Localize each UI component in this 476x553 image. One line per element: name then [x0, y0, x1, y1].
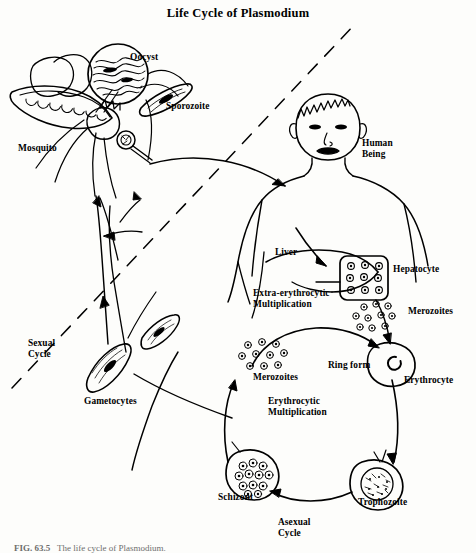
liver-infection-arrow — [296, 228, 326, 266]
liver-merozoites-cluster — [353, 300, 395, 344]
label-oocyst: Oocyst — [130, 52, 158, 63]
figure-caption-text: The life cycle of Plasmodium. — [57, 543, 166, 553]
label-erythrocyte: Erythrocyte — [404, 375, 453, 386]
label-human-being: Human Being — [362, 138, 393, 160]
label-trophozoite: Trophozoite — [358, 497, 407, 508]
blood-merozoites-cluster — [239, 339, 288, 370]
figure-caption-number: FIG. 63.5 — [14, 543, 57, 553]
sporozoite-transmission-arc — [140, 70, 285, 186]
label-erythrocytic-multiplication: Erythrocytic Multiplication — [268, 396, 327, 418]
label-extra-erythrocytic-multiplication: Extra-erythrocytic Multiplication — [253, 288, 330, 310]
label-gametocytes: Gametocytes — [84, 396, 137, 407]
figure-caption: FIG. 63.5 The life cycle of Plasmodium. — [14, 543, 166, 553]
human-being-illustration — [228, 94, 428, 318]
label-merozoites-liver: Merozoites — [408, 306, 453, 317]
label-liver: Liver — [275, 247, 297, 258]
gametocytes-illustration — [87, 315, 180, 392]
label-ring-form: Ring form — [328, 360, 370, 371]
label-mosquito: Mosquito — [18, 143, 57, 154]
label-schizont: Schizont — [218, 492, 253, 503]
label-sporozoite: Sporozoite — [166, 101, 210, 112]
label-hepatocyte: Hepatocyte — [393, 264, 439, 275]
plasmodium-life-cycle-illustration — [0, 0, 476, 553]
figure-root: Life Cycle of Plasmodium — [0, 0, 476, 553]
mosquito-illustration — [10, 55, 152, 198]
sexual-asexual-divider-line — [12, 24, 355, 388]
label-sexual-cycle: Sexual Cycle — [28, 338, 55, 360]
label-merozoites-blood: Merozoites — [253, 372, 298, 383]
label-asexual-cycle: Asexual Cycle — [278, 517, 310, 539]
